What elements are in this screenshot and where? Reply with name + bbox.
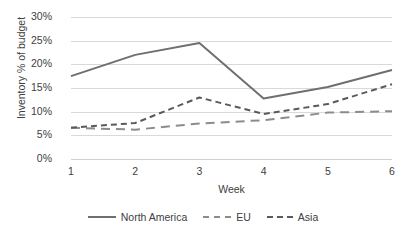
legend-item-eu[interactable]: EU: [203, 212, 251, 223]
y-tick-label: 20%: [8, 57, 52, 69]
legend-item-north-america[interactable]: North America: [88, 212, 188, 223]
series-line-eu: [71, 111, 392, 129]
x-tick-label: 1: [51, 165, 91, 177]
y-tick-label: 0%: [8, 152, 52, 164]
y-tick-label: 10%: [8, 105, 52, 117]
y-tick-label: 15%: [8, 81, 52, 93]
legend-label: EU: [236, 212, 251, 223]
plot-area: 0%5%10%15%20%25%30% 123456: [71, 17, 392, 159]
x-tick-label: 5: [308, 165, 348, 177]
legend-label: Asia: [298, 212, 318, 223]
x-tick-label: 4: [244, 165, 284, 177]
legend-swatch-icon: [267, 216, 293, 218]
x-tick-label: 3: [179, 165, 219, 177]
series-line-asia: [71, 84, 392, 128]
x-axis-title: Week: [71, 183, 392, 195]
legend-item-asia[interactable]: Asia: [267, 212, 318, 223]
x-tick-label: 6: [372, 165, 406, 177]
series-line-north-america: [71, 43, 392, 98]
y-tick-label: 30%: [8, 10, 52, 22]
series-lines: [71, 17, 392, 159]
legend-swatch-icon: [88, 216, 116, 218]
gridline: [71, 159, 392, 160]
legend-label: North America: [121, 212, 188, 223]
chart-legend: North AmericaEUAsia: [0, 212, 406, 223]
x-tick-label: 2: [115, 165, 155, 177]
y-tick-label: 25%: [8, 34, 52, 46]
line-chart: Inventory % of budget 0%5%10%15%20%25%30…: [0, 0, 406, 241]
y-tick-label: 5%: [8, 128, 52, 140]
legend-swatch-icon: [203, 216, 231, 218]
